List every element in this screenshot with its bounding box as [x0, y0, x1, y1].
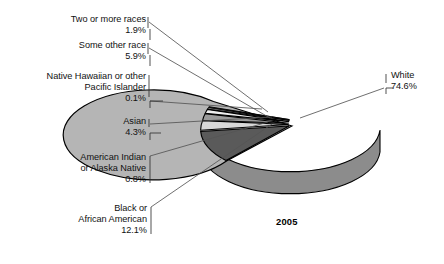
label-black-african-american-value: 12.1% — [8, 225, 147, 236]
label-black-african-american-line1: Black or — [8, 203, 147, 214]
label-black-african-american-line2: African American — [8, 214, 147, 225]
label-some-other-race: Some other race 5.9% — [10, 40, 146, 62]
label-two-or-more-races-name: Two or more races — [10, 14, 146, 25]
leader-white — [300, 88, 384, 118]
label-american-indian-line2: or Alaska Native — [8, 163, 146, 174]
label-asian: Asian 4.3% — [10, 116, 146, 138]
label-native-hawaiian-line1: Native Hawaiian or other — [4, 71, 146, 82]
label-native-hawaiian-line2: Pacific Islander — [4, 82, 146, 93]
pie-chart-figure: Two or more races 1.9% Some other race 5… — [0, 0, 444, 264]
label-native-hawaiian: Native Hawaiian or other Pacific Islande… — [4, 71, 146, 105]
label-american-indian: American Indian or Alaska Native 0.8% — [8, 152, 146, 186]
label-white-value: 74.6% — [391, 81, 443, 92]
label-white: White 74.6% — [391, 70, 443, 92]
label-american-indian-value: 0.8% — [8, 174, 146, 185]
year-label: 2005 — [276, 216, 298, 227]
label-black-african-american: Black or African American 12.1% — [8, 203, 147, 237]
label-two-or-more-races: Two or more races 1.9% — [10, 14, 146, 36]
label-some-other-race-name: Some other race — [10, 40, 146, 51]
label-american-indian-line1: American Indian — [8, 152, 146, 163]
label-white-name: White — [391, 70, 443, 81]
label-native-hawaiian-value: 0.1% — [4, 93, 146, 104]
label-asian-name: Asian — [10, 116, 146, 127]
label-some-other-race-value: 5.9% — [10, 51, 146, 62]
label-asian-value: 4.3% — [10, 127, 146, 138]
label-two-or-more-races-value: 1.9% — [10, 25, 146, 36]
